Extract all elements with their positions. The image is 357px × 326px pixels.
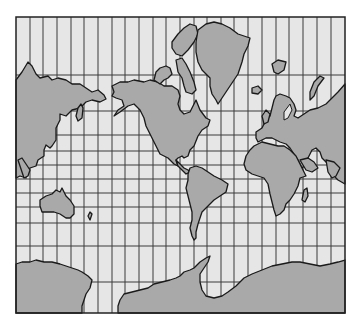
mercator-world-map: [0, 0, 357, 326]
